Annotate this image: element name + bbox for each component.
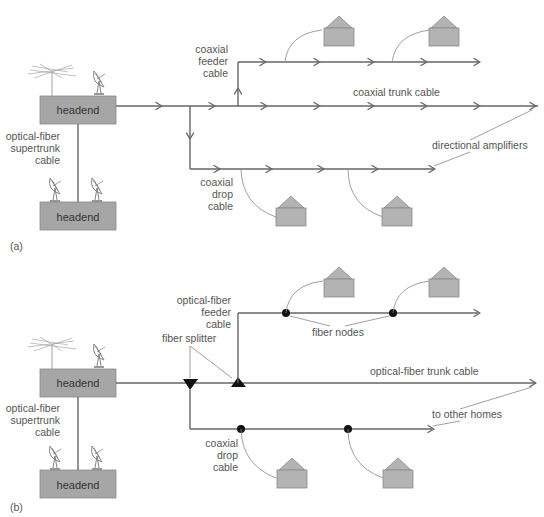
drop-label-3: cable bbox=[208, 200, 233, 212]
feeder-label-2: feeder bbox=[198, 55, 228, 67]
house-icon bbox=[429, 267, 459, 297]
feeder-label-1: optical-fiber bbox=[177, 294, 232, 306]
house-icon bbox=[429, 16, 459, 46]
drop-label-1: coaxial bbox=[205, 437, 238, 449]
amplifier-pointer bbox=[470, 110, 532, 140]
nodes-pointer bbox=[345, 316, 389, 326]
supertrunk-label-2: supertrunk bbox=[10, 414, 60, 426]
feeder-label-1: coaxial bbox=[195, 43, 228, 55]
trunk-label: optical-fiber trunk cable bbox=[370, 365, 479, 377]
supertrunk-label-1: optical-fiber bbox=[6, 130, 61, 142]
panel-label-a: (a) bbox=[10, 240, 23, 252]
house-icon bbox=[324, 267, 354, 297]
home-connection bbox=[348, 429, 383, 478]
feeder-label-3: cable bbox=[206, 318, 231, 330]
supertrunk-label-2: supertrunk bbox=[10, 142, 60, 154]
home-connection bbox=[392, 30, 430, 62]
other-homes-pointer bbox=[460, 387, 532, 409]
other-homes-label: to other homes bbox=[432, 408, 502, 420]
headend-label-top: headend bbox=[57, 377, 100, 389]
cable-tv-network-diagram: headend optical-fiber supertrunk cable h… bbox=[0, 0, 544, 517]
feeder-label-3: cable bbox=[203, 67, 228, 79]
house-icon bbox=[383, 458, 413, 488]
yagi-antenna-icon bbox=[28, 337, 76, 369]
home-connection bbox=[348, 169, 383, 217]
amplifier-pointer bbox=[434, 152, 470, 166]
house-icon bbox=[276, 196, 306, 226]
drop-label-2: drop bbox=[212, 188, 233, 200]
home-connection bbox=[393, 281, 430, 313]
drop-label-3: cable bbox=[213, 461, 238, 473]
home-connection bbox=[286, 281, 323, 313]
satellite-dish-icon bbox=[91, 446, 103, 470]
nodes-pointer bbox=[290, 316, 330, 326]
drop-label-1: coaxial bbox=[200, 176, 233, 188]
yagi-antenna-icon bbox=[28, 64, 76, 96]
feeder-label-2: feeder bbox=[201, 306, 231, 318]
supertrunk-label-1: optical-fiber bbox=[6, 402, 61, 414]
supertrunk-label-3: cable bbox=[35, 426, 60, 438]
satellite-dish-icon bbox=[93, 344, 105, 368]
drop-label-2: drop bbox=[217, 449, 238, 461]
house-icon bbox=[382, 196, 412, 226]
satellite-dish-icon bbox=[91, 178, 103, 202]
home-connection bbox=[241, 429, 276, 478]
fiber-nodes-label: fiber nodes bbox=[312, 326, 364, 338]
satellite-dish-icon bbox=[49, 178, 61, 202]
amplifiers-label: directional amplifiers bbox=[432, 139, 528, 151]
trunk-label: coaxial trunk cable bbox=[353, 86, 440, 98]
house-icon bbox=[324, 16, 354, 46]
satellite-dish-icon bbox=[49, 446, 61, 470]
panel-b: headend optical-fiber supertrunk cable h… bbox=[6, 267, 536, 513]
other-homes-pointer bbox=[433, 421, 460, 426]
headend-label-bottom: headend bbox=[57, 479, 100, 491]
headend-label-bottom: headend bbox=[57, 211, 100, 223]
home-connection bbox=[241, 169, 276, 217]
black-triangle-icon bbox=[183, 379, 198, 390]
splitter-label: fiber splitter bbox=[162, 332, 217, 344]
supertrunk-label-3: cable bbox=[35, 154, 60, 166]
splitter-pointer bbox=[190, 346, 232, 378]
headend-label-top: headend bbox=[57, 104, 100, 116]
home-connection bbox=[285, 30, 322, 62]
panel-label-b: (b) bbox=[10, 501, 23, 513]
panel-a: headend optical-fiber supertrunk cable h… bbox=[6, 16, 538, 252]
house-icon bbox=[277, 458, 307, 488]
satellite-dish-icon bbox=[93, 71, 105, 95]
